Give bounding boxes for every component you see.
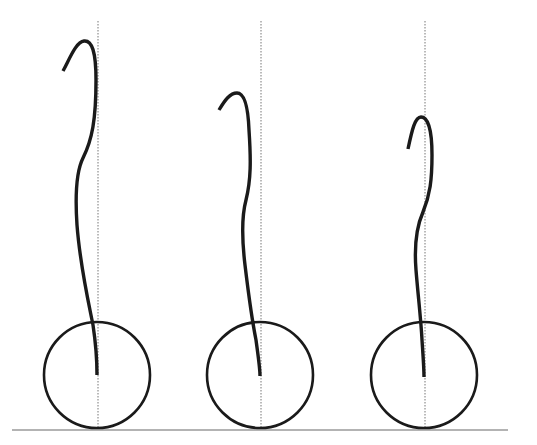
diagram-canvas: Three figures, each a curved line (spine… — [0, 0, 537, 445]
spine-curve-3 — [408, 117, 432, 377]
figure-3 — [371, 21, 477, 428]
figure-2 — [207, 21, 313, 428]
posture-diagram — [0, 0, 537, 445]
figure-1 — [44, 21, 150, 428]
